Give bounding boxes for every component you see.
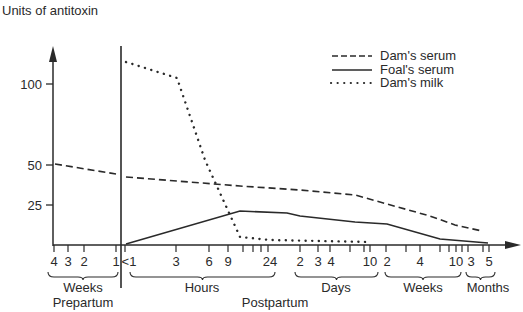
y-tick-label: 25 [28,198,42,213]
antitoxin-chart: Units of antitoxin 1005025 4321<13692423… [0,0,523,312]
period-label: Prepartum [53,295,114,310]
x-tick-label: 4 [327,254,334,269]
x-tick-label: 5 [485,254,492,269]
legend-label-dams-serum: Dam's serum [380,48,456,63]
group-brace [48,272,118,280]
period-label: Postpartum [242,295,308,310]
x-tick-label: 3 [314,254,321,269]
group-label: Weeks [63,280,103,295]
series-foals-serum [126,211,488,244]
x-tick-label: 24 [263,254,277,269]
y-axis-arrow-icon [49,46,57,62]
group-brace [130,272,275,280]
y-ticks: 1005025 [20,77,53,213]
series-dams-serum-postpartum [126,177,482,231]
x-tick-label: 9 [224,254,231,269]
x-tick-label: 3 [64,254,71,269]
legend-label-dams-milk: Dam's milk [380,75,444,90]
x-tick-label: 3 [172,254,179,269]
x-tick-label: 4 [50,254,57,269]
series-dams-milk [126,62,370,242]
x-tick-label: 2 [383,254,390,269]
x-tick-label: 10 [363,254,377,269]
x-tick-marks [54,245,489,252]
x-tick-label: 4 [416,254,423,269]
x-axis-arrow-icon [505,241,521,249]
y-tick-label: 50 [28,158,42,173]
x-tick-label: 1 [112,254,119,269]
x-tick-label: 3 [467,254,474,269]
period-labels: PrepartumPostpartum [53,295,309,310]
group-label: Days [321,280,351,295]
x-tick-label: 10 [449,254,463,269]
y-axis-label: Units of antitoxin [2,3,98,18]
group-label: Months [467,280,510,295]
x-tick-label: 2 [80,254,87,269]
group-brace [385,272,461,280]
x-tick-label: 6 [205,254,212,269]
legend: Dam's serum Foal's serum Dam's milk [331,48,456,90]
group-label: Weeks [403,280,443,295]
x-tick-label: <1 [122,254,137,269]
x-group-braces: WeeksHoursDaysWeeksMonths [48,272,510,295]
group-brace [466,272,495,280]
group-brace [295,272,378,280]
x-tick-labels: 4321<13692423410241035 [50,254,492,269]
series-dams-serum-prepartum [55,164,116,174]
y-tick-label: 100 [20,77,42,92]
x-tick-label: 2 [296,254,303,269]
group-label: Hours [185,280,220,295]
